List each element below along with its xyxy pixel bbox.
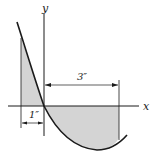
- arrow-left-icon: [45, 83, 51, 87]
- arrow-right-icon: [38, 122, 43, 125]
- shaded-region-right: [44, 106, 119, 150]
- area-diagram: 3″ 1″ y x: [0, 0, 154, 164]
- dimension-3-label: 3″: [77, 71, 87, 82]
- dimension-1-label: 1″: [29, 109, 39, 120]
- arrow-left-icon: [22, 122, 27, 125]
- arrow-right-icon: [112, 83, 118, 87]
- x-axis-label: x: [143, 100, 150, 113]
- y-axis-label: y: [41, 2, 49, 15]
